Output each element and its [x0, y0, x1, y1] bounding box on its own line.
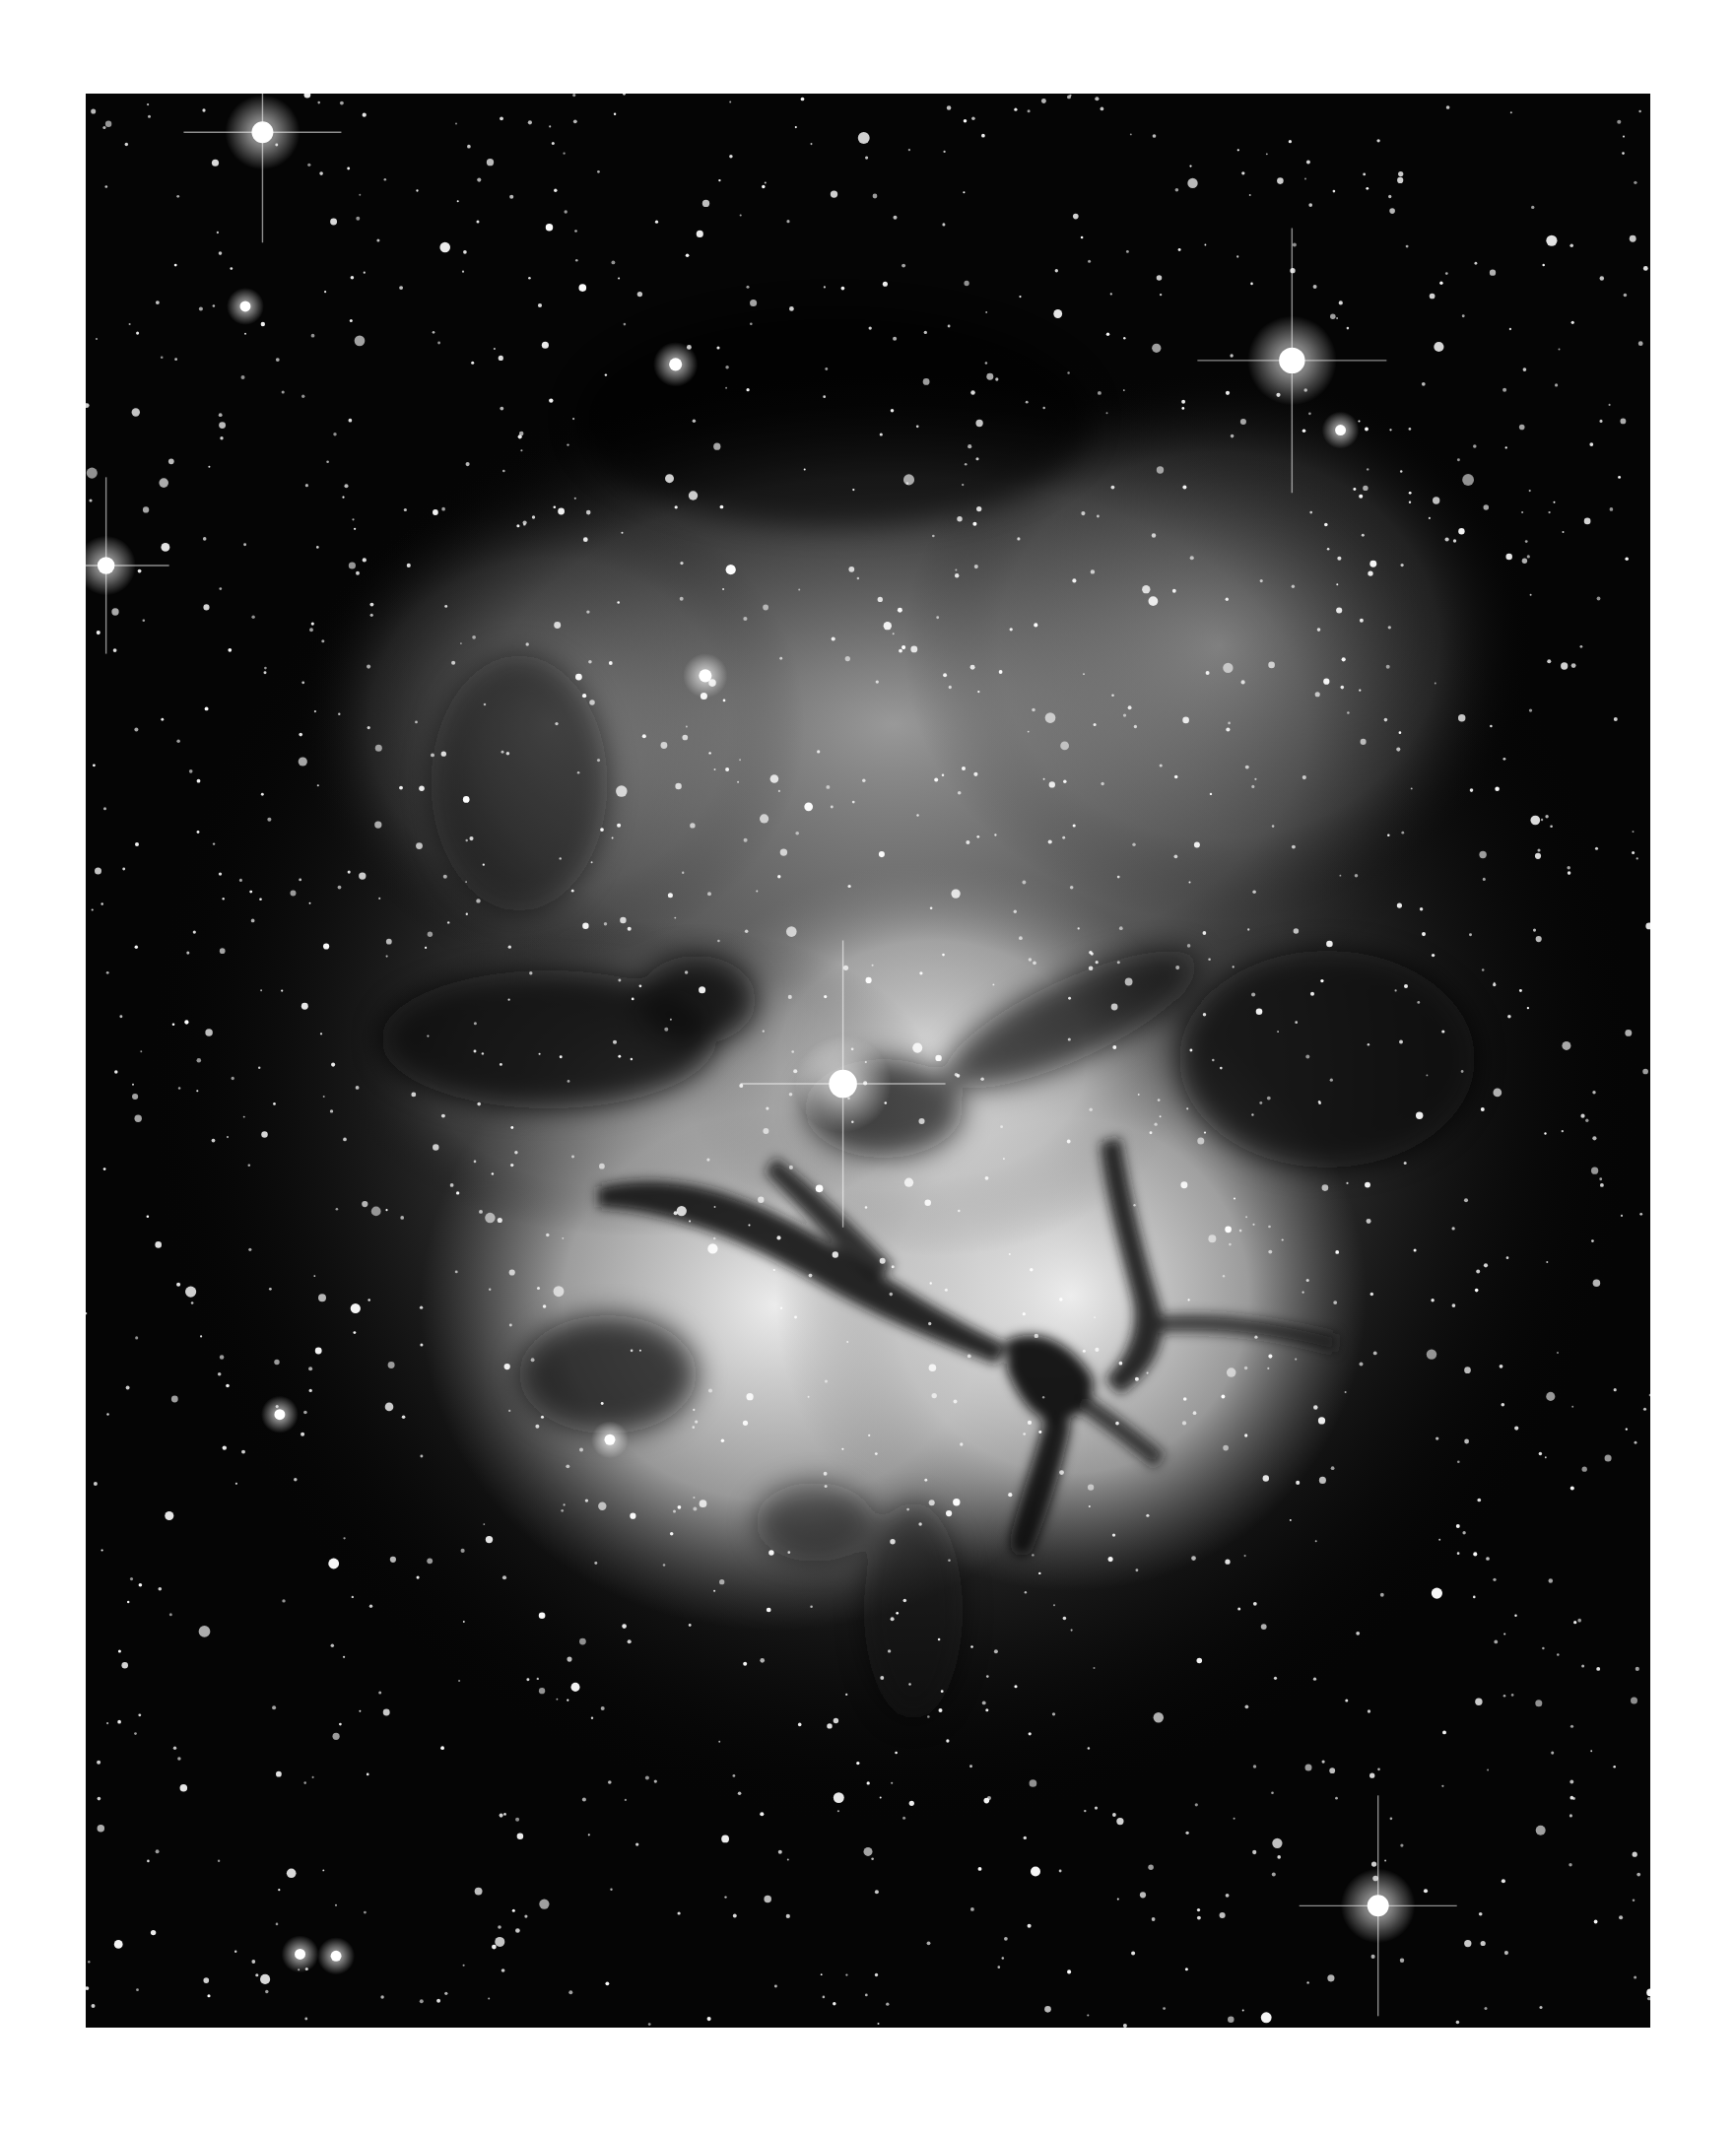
- field-star: [1335, 1797, 1338, 1800]
- field-star: [677, 1206, 687, 1216]
- field-star: [539, 1899, 549, 1908]
- field-star: [768, 1550, 773, 1555]
- field-star: [184, 1020, 188, 1024]
- field-star: [1309, 511, 1312, 514]
- field-star: [1395, 989, 1397, 991]
- field-star: [1067, 371, 1069, 373]
- field-star: [1093, 1667, 1095, 1669]
- field-star: [591, 861, 593, 863]
- field-star: [416, 189, 418, 191]
- field-star: [380, 1995, 383, 1998]
- field-star: [1366, 187, 1369, 190]
- field-star: [474, 1049, 477, 1052]
- field-star: [1539, 2006, 1542, 2009]
- field-star: [985, 311, 987, 313]
- field-star: [1541, 819, 1543, 821]
- field-star: [1289, 140, 1292, 143]
- field-star: [729, 100, 731, 102]
- field-star: [202, 108, 205, 111]
- field-star: [1123, 713, 1126, 716]
- field-star: [890, 1539, 895, 1544]
- field-star: [500, 1063, 502, 1066]
- field-star: [1347, 711, 1349, 713]
- field-star: [367, 726, 370, 729]
- field-star: [1240, 419, 1246, 425]
- field-star: [1072, 578, 1076, 582]
- field-star: [554, 505, 557, 508]
- field-star: [1474, 262, 1477, 265]
- field-star: [1008, 1493, 1012, 1497]
- field-star: [1112, 1533, 1115, 1536]
- field-star: [455, 123, 457, 125]
- field-star: [891, 1617, 895, 1621]
- field-star: [1346, 1182, 1348, 1184]
- field-star: [1135, 1377, 1139, 1381]
- field-star: [601, 1402, 604, 1405]
- field-star: [241, 1450, 245, 1454]
- field-star: [197, 779, 201, 783]
- field-star: [1023, 1433, 1026, 1435]
- field-star: [927, 1941, 931, 1945]
- field-star: [196, 1090, 198, 1092]
- field-star: [1362, 534, 1365, 537]
- field-star: [758, 1197, 764, 1203]
- field-star: [106, 1413, 108, 1415]
- field-star: [957, 1074, 961, 1078]
- field-star: [1441, 1030, 1444, 1033]
- field-star: [199, 1626, 211, 1637]
- field-star: [1032, 1554, 1034, 1556]
- field-star: [1369, 561, 1376, 567]
- field-star: [618, 979, 621, 982]
- field-star: [495, 1937, 504, 1947]
- field-star: [1322, 1184, 1329, 1191]
- field-star: [1014, 108, 1017, 111]
- field-star: [1323, 679, 1329, 685]
- field-star: [335, 1904, 337, 1906]
- field-star: [458, 1680, 460, 1682]
- field-star: [575, 259, 578, 262]
- field-star: [1363, 172, 1366, 175]
- field-star: [880, 1258, 886, 1264]
- field-star: [906, 1508, 909, 1511]
- field-star: [1503, 1633, 1505, 1635]
- field-star: [865, 1993, 868, 1996]
- field-star: [868, 1434, 870, 1436]
- field-star: [686, 253, 690, 257]
- field-star: [631, 1058, 634, 1061]
- field-star: [315, 1348, 322, 1355]
- field-star: [578, 284, 586, 292]
- field-star: [203, 537, 207, 541]
- field-star: [134, 1115, 141, 1122]
- field-star: [89, 499, 92, 501]
- field-star: [974, 565, 978, 568]
- field-star: [1004, 1937, 1008, 1941]
- field-star: [402, 1415, 406, 1419]
- field-star: [1226, 598, 1229, 601]
- field-star: [212, 1139, 216, 1143]
- field-star: [1185, 1832, 1188, 1835]
- field-star: [1452, 1303, 1456, 1307]
- field-star: [948, 325, 951, 328]
- field-star: [707, 892, 711, 896]
- field-star: [1024, 1836, 1027, 1839]
- field-star: [567, 443, 568, 445]
- field-star: [1116, 1818, 1123, 1825]
- field-star: [706, 1158, 709, 1161]
- field-star: [501, 1968, 505, 1972]
- field-star: [1592, 1091, 1595, 1094]
- field-star: [88, 1961, 90, 1963]
- field-star: [134, 1732, 137, 1735]
- field-star: [1220, 1067, 1223, 1070]
- field-star: [787, 1858, 789, 1860]
- field-star: [789, 1166, 793, 1169]
- field-star: [1304, 178, 1306, 180]
- field-star: [1376, 139, 1379, 142]
- field-star: [492, 1172, 494, 1174]
- field-star: [873, 194, 878, 199]
- field-star: [143, 619, 146, 622]
- field-star: [852, 801, 855, 804]
- field-star: [1411, 787, 1413, 789]
- field-star: [338, 713, 340, 715]
- field-star: [1252, 1224, 1254, 1226]
- field-star: [746, 1393, 753, 1400]
